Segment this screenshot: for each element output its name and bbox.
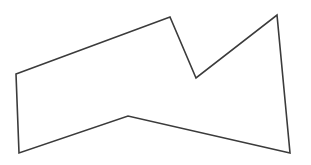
polygon-figure-canvas bbox=[0, 0, 311, 165]
